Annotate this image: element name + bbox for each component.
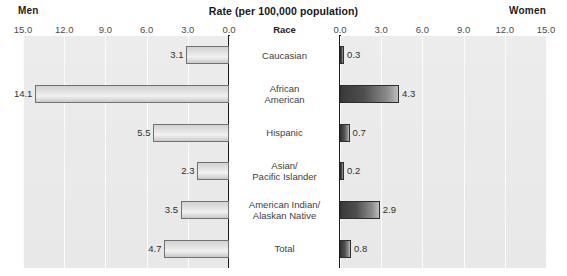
category-label-line: Pacific Islander <box>229 171 340 183</box>
women-bar <box>340 240 351 258</box>
category-label: American Indian/Alaskan Native <box>229 199 340 222</box>
bar-value-label: 0.3 <box>347 49 360 60</box>
bar-row: 3.5 <box>23 201 229 219</box>
bar-value-label: 2.9 <box>383 204 396 215</box>
men-bar <box>153 124 229 142</box>
axis-tick-label: 15.0 <box>14 24 33 35</box>
category-label-line: Total <box>229 243 340 255</box>
chart-title: Rate (per 100,000 population) <box>0 5 567 17</box>
axis-tick-label: 12.0 <box>55 24 74 35</box>
men-bar <box>197 162 229 180</box>
bar-value-label: 0.8 <box>354 243 367 254</box>
women-bar <box>340 85 399 103</box>
category-label-column: CaucasianAfricanAmericanHispanicAsian/Pa… <box>229 36 340 268</box>
bar-value-label: 14.1 <box>14 88 33 99</box>
gridline <box>105 36 106 268</box>
category-label-line: American <box>229 94 340 106</box>
bar-row: 0.8 <box>340 240 546 258</box>
axis-tick-label: 6.0 <box>416 24 429 35</box>
bar-value-label: 4.7 <box>148 243 161 254</box>
category-label: Total <box>229 243 340 255</box>
bar-row: 4.3 <box>340 85 546 103</box>
bar-row: 14.1 <box>23 85 229 103</box>
bar-value-label: 2.3 <box>181 165 194 176</box>
bar-value-label: 0.2 <box>347 165 360 176</box>
bar-row: 4.7 <box>23 240 229 258</box>
women-bar <box>340 46 344 64</box>
men-bar <box>186 46 229 64</box>
axis-tick-label: 15.0 <box>537 24 556 35</box>
category-label: Caucasian <box>229 50 340 62</box>
gridline <box>381 36 382 268</box>
gridline <box>64 36 65 268</box>
bar-row: 0.7 <box>340 124 546 142</box>
category-label-line: Alaskan Native <box>229 210 340 222</box>
gridline <box>188 36 189 268</box>
women-plot-area: 0.34.30.70.22.90.8 <box>340 36 546 268</box>
men-bar <box>35 85 229 103</box>
axis-tick-label: 3.0 <box>181 24 194 35</box>
men-plot-area: 3.114.15.52.33.54.7 <box>23 36 229 268</box>
bar-row: 2.3 <box>23 162 229 180</box>
bar-value-label: 3.1 <box>170 49 183 60</box>
bar-value-label: 4.3 <box>402 88 415 99</box>
category-label-line: American Indian/ <box>229 199 340 211</box>
category-label-line: Hispanic <box>229 127 340 139</box>
bar-row: 5.5 <box>23 124 229 142</box>
women-bar <box>340 162 344 180</box>
axis-tick-label: 6.0 <box>140 24 153 35</box>
chart-header: Men Rate (per 100,000 population) Women <box>0 0 567 22</box>
axis-tick-label: 9.0 <box>457 24 470 35</box>
category-label: Asian/Pacific Islander <box>229 160 340 183</box>
bar-row: 3.1 <box>23 46 229 64</box>
bar-row: 0.2 <box>340 162 546 180</box>
gridline <box>505 36 506 268</box>
women-bar <box>340 124 350 142</box>
bar-value-label: 0.7 <box>353 127 366 138</box>
category-label-line: African <box>229 83 340 95</box>
gridline <box>546 36 547 268</box>
category-label: Hispanic <box>229 127 340 139</box>
category-label-line: Asian/ <box>229 160 340 172</box>
bar-value-label: 3.5 <box>165 204 178 215</box>
gridline <box>23 36 24 268</box>
men-bar <box>181 201 229 219</box>
race-column-header: Race <box>229 24 340 35</box>
axis-tick-label: 3.0 <box>375 24 388 35</box>
bar-row: 0.3 <box>340 46 546 64</box>
axis-tick-label: 0.0 <box>333 24 346 35</box>
women-bar <box>340 201 380 219</box>
gridline <box>147 36 148 268</box>
bar-value-label: 5.5 <box>137 127 150 138</box>
bar-row: 2.9 <box>340 201 546 219</box>
category-label-line: Caucasian <box>229 50 340 62</box>
gridline <box>464 36 465 268</box>
men-bar <box>164 240 229 258</box>
women-side-label: Women <box>509 5 546 16</box>
axis-tick-label: 12.0 <box>496 24 515 35</box>
category-label: AfricanAmerican <box>229 83 340 106</box>
gridline <box>422 36 423 268</box>
gridline <box>340 36 341 268</box>
axis-tick-label: 9.0 <box>99 24 112 35</box>
